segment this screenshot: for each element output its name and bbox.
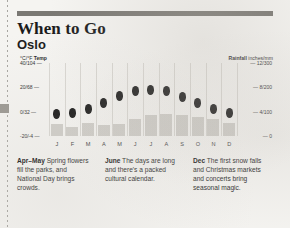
month-column: O [190, 63, 206, 136]
month-column: A [96, 63, 112, 136]
month-column: M [80, 63, 96, 136]
right-axis-tick: — 12/300 [250, 60, 272, 66]
guidebook-page: When to Go Oslo °C/°F Temp Rainfall inch… [0, 0, 290, 228]
temperature-dot [163, 86, 170, 96]
rainfall-bar [51, 124, 63, 136]
right-axis-tick: — 0 [263, 133, 272, 139]
month-column: J [127, 63, 143, 136]
left-axis-tick: 20/68 — [20, 84, 39, 90]
rainfall-bar [98, 125, 110, 136]
column-separator [237, 63, 238, 136]
season-note: Apr–May Spring flowers fill the parks, a… [17, 156, 91, 192]
month-label: F [65, 141, 81, 148]
temperature-dot [116, 91, 123, 101]
season-note-label: Dec [193, 157, 205, 164]
left-axis-tick: -20/-4 — [20, 133, 39, 139]
month-label: M [80, 141, 96, 148]
rainfall-bar [223, 123, 235, 136]
season-notes: Apr–May Spring flowers fill the parks, a… [17, 156, 273, 226]
season-note-label: Apr–May [17, 157, 45, 164]
rainfall-bar [113, 124, 125, 136]
temperature-dot [226, 108, 233, 118]
season-note: June The days are long and there's a pac… [105, 156, 179, 183]
chart-plot-area: JFMAMJJASOND [49, 63, 237, 136]
season-note: Dec The first snow falls and Christmas m… [193, 156, 273, 192]
temperature-dot [147, 85, 154, 95]
temperature-dot [100, 98, 107, 108]
month-label: J [49, 141, 65, 148]
left-axis-tick: 0/32 — [20, 109, 36, 115]
rainfall-bar [160, 114, 172, 136]
month-label: A [159, 141, 175, 148]
month-label: J [127, 141, 143, 148]
page-subtitle: Oslo [17, 37, 46, 52]
month-label: J [143, 141, 159, 148]
month-label: N [206, 141, 222, 148]
month-column: F [65, 63, 81, 136]
month-label: D [221, 141, 237, 148]
season-note-label: June [105, 157, 120, 164]
temperature-dot [179, 92, 186, 102]
temperature-dot [53, 109, 60, 119]
rainfall-bar [145, 115, 157, 136]
column-separator [65, 63, 66, 136]
temperature-dot [85, 104, 92, 114]
rainfall-bar [82, 123, 94, 136]
rainfall-bar [176, 115, 188, 136]
right-axis-label: Rainfall [229, 55, 247, 61]
page-title: When to Go [17, 19, 106, 38]
right-axis-tick: — 4/100 [253, 109, 272, 115]
rainfall-bar [66, 127, 78, 136]
climate-chart: °C/°F Temp Rainfall inches/mm 40/104 —20… [17, 55, 273, 150]
month-label: O [190, 141, 206, 148]
page-gutter-dotted-line [7, 0, 8, 228]
temperature-dot [69, 108, 76, 118]
month-column: M [112, 63, 128, 136]
month-label: M [112, 141, 128, 148]
right-axis-tick: — 8/200 [253, 84, 272, 90]
month-label: A [96, 141, 112, 148]
rainfall-bar [129, 119, 141, 136]
month-column: A [159, 63, 175, 136]
section-top-rule [17, 11, 273, 16]
month-label: S [174, 141, 190, 148]
temperature-dot [194, 98, 201, 108]
left-axis-tick: 40/104 — [20, 60, 42, 66]
month-column: N [206, 63, 222, 136]
month-column: J [49, 63, 65, 136]
rainfall-bar [192, 117, 204, 136]
temperature-dot [132, 86, 139, 96]
month-column: D [221, 63, 237, 136]
temperature-dot [210, 104, 217, 114]
rainfall-bar [207, 119, 219, 136]
month-column: J [143, 63, 159, 136]
month-column: S [174, 63, 190, 136]
page-edge-mark [0, 104, 9, 113]
